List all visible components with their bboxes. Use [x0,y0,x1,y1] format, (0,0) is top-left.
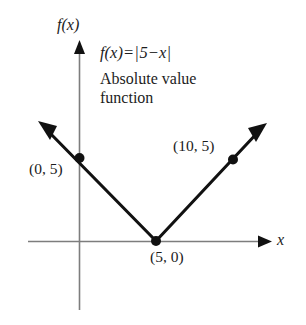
equation-lhs: f(x) [100,43,123,62]
absolute-value-function-figure: f(x) x f(x)=|5−x| Absolute value functio… [0,0,306,325]
equation-minus-icon: − [148,43,159,62]
equation-equals: = [123,43,134,62]
point-marker-10-5 [228,155,238,165]
point-marker-5-0 [151,236,161,246]
function-branch-left [46,129,156,241]
y-axis-arrowhead-icon [74,40,85,54]
point-label-5-0: (5, 0) [150,248,184,266]
point-label-10-5: (10, 5) [173,137,214,155]
function-caption: Absolute value function [100,70,220,108]
absolute-bar-close-icon: | [166,43,171,62]
point-marker-0-5 [75,153,85,163]
x-axis-label: x [277,231,284,250]
point-label-0-5: (0, 5) [29,160,63,178]
x-axis-arrowhead-icon [258,236,272,248]
y-axis-label: f(x) [57,16,79,35]
function-equation: f(x)=|5−x| [100,43,172,62]
equation-operand-a: 5 [140,43,148,62]
